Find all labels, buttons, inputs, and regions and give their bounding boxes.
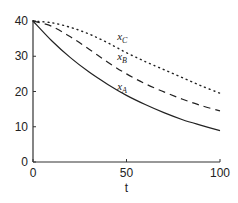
y-tick-label: 10 — [15, 120, 29, 134]
series-label: xC — [116, 30, 128, 45]
series-label: xA — [116, 80, 127, 95]
y-tick-label: 20 — [15, 85, 29, 99]
y-tick-label: 30 — [15, 49, 29, 63]
y-tick-label: 40 — [15, 14, 29, 28]
y-tick-label: 0 — [21, 155, 28, 169]
series-line-x-b — [33, 21, 220, 111]
annotations: xCxBxA — [116, 30, 128, 94]
x-tick-label: 100 — [210, 166, 230, 180]
x-tick-label: 0 — [30, 166, 37, 180]
x-axis-label: t — [125, 181, 129, 195]
x-tick-label: 50 — [120, 166, 134, 180]
series-label: xB — [116, 50, 127, 65]
chart: 010203040050100 xCxBxA t — [0, 0, 238, 203]
